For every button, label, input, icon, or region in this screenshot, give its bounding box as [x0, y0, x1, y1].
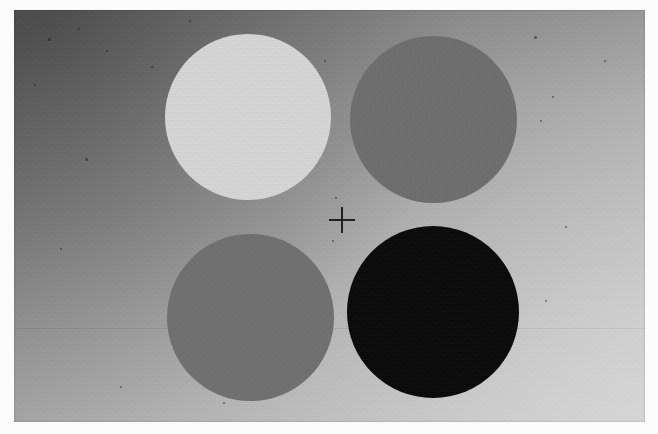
- disc-bottom-left-grain: [167, 234, 334, 401]
- fixation-cross: [329, 207, 355, 233]
- disc-bottom-left: [167, 234, 334, 401]
- disc-top-right: [350, 36, 517, 203]
- photograph-area: [14, 10, 645, 422]
- photographic-plate: [0, 0, 658, 434]
- disc-top-left: [165, 34, 331, 200]
- disc-top-right-grain: [350, 36, 517, 203]
- disc-bottom-right-grain: [347, 226, 519, 398]
- disc-bottom-right: [347, 226, 519, 398]
- disc-top-left-grain: [165, 34, 331, 200]
- fixation-cross-vertical-bar: [341, 207, 343, 233]
